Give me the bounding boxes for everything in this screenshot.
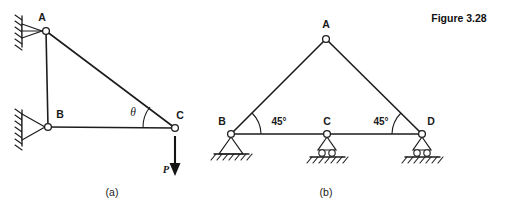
label-a-node-b: B	[56, 108, 64, 120]
label-a-node-a: A	[38, 11, 46, 23]
support-b-wall	[15, 109, 22, 150]
label-angle-45-left: 45°	[271, 116, 286, 127]
support-b-pin	[22, 114, 45, 140]
caption-subfigure-a: (a)	[106, 186, 119, 198]
joint-b-node-a	[323, 36, 330, 43]
joint-b-node-d	[419, 131, 426, 138]
support-b-pin-ground	[211, 137, 252, 160]
label-b-node-b: B	[218, 115, 226, 127]
caption-subfigure-b: (b)	[320, 186, 333, 198]
figure-canvas: A B C θ P (a)	[0, 0, 515, 217]
joint-b-node-c	[324, 131, 331, 138]
joint-a-node-b	[45, 124, 52, 131]
support-a-wall	[15, 15, 22, 50]
support-d-roller-ground	[402, 137, 443, 163]
label-b-node-a: A	[322, 18, 330, 30]
label-angle-theta: θ	[130, 106, 136, 118]
label-load-p: P	[163, 164, 170, 175]
angle-45-left-arc	[252, 113, 261, 134]
figure-3-28-container: A B C θ P (a)	[0, 0, 515, 217]
load-arrow-p	[170, 136, 181, 176]
diagram-b-group: A B C D 45° 45° (b)	[211, 18, 443, 198]
joint-a-node-a	[43, 28, 50, 35]
member-a-ab	[46, 31, 48, 127]
label-angle-45-right: 45°	[373, 116, 388, 127]
joint-a-node-c	[172, 125, 179, 132]
diagram-a-group: A B C θ P (a)	[15, 11, 184, 198]
member-a-bc	[48, 127, 175, 128]
angle-45-right-arc	[392, 113, 401, 134]
figure-caption: Figure 3.28	[431, 12, 487, 24]
support-c-roller-ground	[307, 137, 348, 163]
joint-b-node-b	[228, 131, 235, 138]
angle-theta-arc	[143, 107, 150, 128]
support-a-pin	[22, 24, 42, 38]
label-b-node-c: C	[323, 115, 331, 127]
label-a-node-c: C	[176, 109, 184, 121]
label-b-node-d: D	[427, 115, 435, 127]
member-a-ac	[46, 31, 175, 128]
